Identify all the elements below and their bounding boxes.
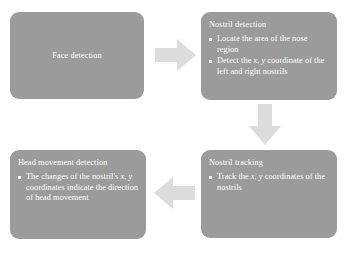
flow-node-title: Nostril tracking [209,157,330,168]
flow-node-title: Face detection [52,50,102,61]
flow-node-bullet: Locate the area of the nose region [209,34,330,55]
flow-node-title: Nostril detection [209,19,330,30]
flow-node-body: Head movement detection The changes of t… [10,150,146,210]
flow-node-body: Nostril tracking Track the x, y coordina… [201,150,337,199]
flow-node-bullet: Track the x, y coordinates of the nostri… [209,172,330,193]
flow-node-title: Head movement detection [18,157,139,168]
arrow-down-icon [248,104,282,146]
flow-node-bullet: The changes of the nostril's x, y coordi… [18,172,139,204]
flow-node-bullet-list: Locate the area of the nose region Detec… [209,34,330,77]
arrow-right-icon [155,38,197,72]
flow-node-body: Nostril detection Locate the area of the… [201,12,337,83]
flow-node-nostril-tracking: Nostril tracking Track the x, y coordina… [201,150,337,238]
flow-node-bullet-list: Track the x, y coordinates of the nostri… [209,172,330,193]
flow-node-nostril-detection: Nostril detection Locate the area of the… [201,12,337,100]
flow-node-face-detection: Face detection [10,12,144,99]
flow-node-bullet: Detect the x, y coordinate of the left a… [209,56,330,77]
flowchart-diagram: Face detection Nostril detection Locate … [0,0,345,253]
arrow-left-icon [154,176,196,210]
flow-node-head-movement-detection: Head movement detection The changes of t… [10,150,146,239]
flow-node-bullet-list: The changes of the nostril's x, y coordi… [18,172,139,204]
